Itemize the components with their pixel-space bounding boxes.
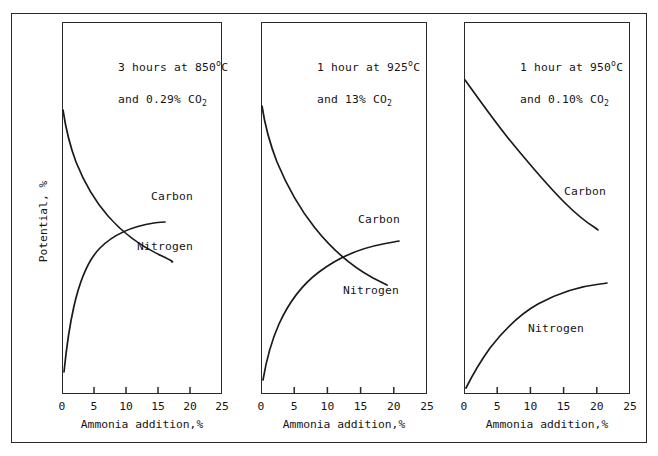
curves-panel-1 xyxy=(62,22,222,394)
carbon-label-1: Carbon xyxy=(151,190,193,203)
xtick-label-25-panel-2: 25 xyxy=(420,400,434,413)
xtick-label-20-panel-3: 20 xyxy=(590,400,604,413)
curves-panel-2 xyxy=(261,22,427,394)
chart-panel-2: 1 hour at 925oC and 13% CO2 Carbon Nitro… xyxy=(261,22,427,417)
xtick-label-0-panel-1: 0 xyxy=(59,400,66,413)
nitrogen-curve-2 xyxy=(263,241,399,380)
nitrogen-curve-3 xyxy=(466,283,607,388)
xtick-label-25-panel-1: 25 xyxy=(215,400,229,413)
curves-panel-3 xyxy=(464,22,630,394)
carbon-curve-3 xyxy=(465,80,598,230)
carbon-label-2: Carbon xyxy=(358,213,400,226)
xtick-label-15-panel-2: 15 xyxy=(354,400,368,413)
xtick-label-5-panel-1: 5 xyxy=(91,400,98,413)
xtick-label-25-panel-3: 25 xyxy=(623,400,637,413)
nitrogen-label-3: Nitrogen xyxy=(528,322,584,335)
xtick-label-15-panel-1: 15 xyxy=(151,400,165,413)
carbon-curve-2 xyxy=(262,106,387,285)
xtick-label-0-panel-2: 0 xyxy=(258,400,265,413)
xtick-label-10-panel-2: 10 xyxy=(321,400,335,413)
figure-root: 3 hours at 850oC and 0.29% CO2 Carbon Ni… xyxy=(0,0,658,456)
xtick-label-5-panel-2: 5 xyxy=(291,400,298,413)
xtick-label-5-panel-3: 5 xyxy=(494,400,501,413)
yaxis-title: Potential, % xyxy=(37,172,50,272)
xaxis-title-panel-3: Ammonia addition,% xyxy=(486,418,608,431)
nitrogen-label-1: Nitrogen xyxy=(137,240,193,253)
xtick-label-20-panel-2: 20 xyxy=(387,400,401,413)
xtick-label-15-panel-3: 15 xyxy=(557,400,571,413)
xtick-label-20-panel-1: 20 xyxy=(183,400,197,413)
xtick-label-0-panel-3: 0 xyxy=(461,400,468,413)
chart-panel-1: 3 hours at 850oC and 0.29% CO2 Carbon Ni… xyxy=(62,22,222,417)
xtick-label-10-panel-3: 10 xyxy=(524,400,538,413)
xaxis-title-panel-1: Ammonia addition,% xyxy=(81,418,203,431)
nitrogen-label-2: Nitrogen xyxy=(343,284,399,297)
chart-panel-3: 1 hour at 950oC and 0.10% CO2 Carbon Nit… xyxy=(464,22,630,417)
xaxis-title-panel-2: Ammonia addition,% xyxy=(283,418,405,431)
carbon-label-3: Carbon xyxy=(564,185,606,198)
xtick-label-10-panel-1: 10 xyxy=(119,400,133,413)
